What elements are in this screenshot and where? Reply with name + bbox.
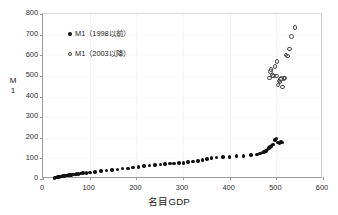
x-axis-tick-mark [276, 177, 277, 180]
y-axis-tick-label: 0 [4, 174, 38, 181]
x-axis-tick-label: 100 [69, 184, 109, 191]
data-point-series-1 [196, 159, 200, 163]
scatter-chart: M 1 0100200300400500600700800 M1（1998以前）… [0, 0, 338, 215]
y-axis-tick-label: 700 [4, 30, 38, 37]
gridline-vertical [276, 14, 277, 177]
data-point-series-1 [99, 169, 103, 173]
y-axis-tick-label: 600 [4, 51, 38, 58]
y-axis-tick-mark [40, 55, 43, 56]
x-axis-tick-label: 300 [162, 184, 202, 191]
data-point-series-1 [163, 162, 167, 166]
y-axis-tick-label: 800 [4, 9, 38, 16]
data-point-series-1 [105, 169, 109, 173]
data-point-series-1 [137, 165, 141, 169]
y-axis-tick-label: 500 [4, 71, 38, 78]
data-point-series-1 [201, 158, 205, 162]
data-point-series-1 [116, 168, 120, 172]
y-axis-tick-mark [40, 138, 43, 139]
data-point-series-1 [159, 163, 163, 167]
chart-legend: M1（1998以前） M1（2003以降） [65, 28, 130, 68]
x-axis-tick-label: 200 [115, 184, 155, 191]
plot-area: M1（1998以前） M1（2003以降） [42, 13, 322, 178]
data-point-series-1 [271, 143, 275, 147]
x-axis-title: 名目GDP [0, 196, 338, 207]
data-point-series-1 [126, 167, 130, 171]
data-point-series-1 [249, 153, 253, 157]
data-point-series-1 [177, 161, 181, 165]
data-point-series-1 [235, 154, 239, 158]
gridline-horizontal [43, 97, 321, 98]
y-axis-tick-label: 200 [4, 133, 38, 140]
data-point-series-2 [285, 54, 290, 59]
data-point-series-1 [242, 154, 246, 158]
gridline-vertical [230, 14, 231, 177]
data-point-series-2 [273, 64, 278, 69]
data-point-series-1 [275, 137, 279, 141]
y-axis-tick-label: 300 [4, 112, 38, 119]
y-axis-tick-label: 400 [4, 92, 38, 99]
x-axis-tick-mark [43, 177, 44, 180]
data-point-series-1 [88, 171, 92, 175]
gridline-vertical [136, 14, 137, 177]
data-point-series-1 [168, 162, 172, 166]
data-point-series-1 [221, 155, 225, 159]
x-axis-tick-mark [90, 177, 91, 180]
data-point-series-1 [110, 168, 114, 172]
data-point-series-1 [93, 170, 97, 174]
gridline-horizontal [43, 158, 321, 159]
data-point-series-2 [280, 85, 285, 90]
x-axis-tick-label: 500 [255, 184, 295, 191]
data-point-series-1 [172, 162, 176, 166]
gridline-vertical [183, 14, 184, 177]
data-point-series-1 [153, 163, 157, 167]
data-point-series-1 [131, 166, 135, 170]
y-axis-tick-mark [40, 117, 43, 118]
data-point-series-1 [142, 164, 146, 168]
legend-item-m1-2003: M1（2003以降） [65, 48, 130, 59]
data-point-series-1 [182, 161, 186, 165]
data-point-series-2 [289, 34, 294, 39]
legend-item-m1-1998: M1（1998以前） [65, 28, 130, 39]
x-axis-tick-mark [323, 177, 324, 180]
x-axis-tick-mark [183, 177, 184, 180]
data-point-series-2 [275, 59, 280, 64]
x-axis-tick-mark [136, 177, 137, 180]
y-axis-tick-mark [40, 158, 43, 159]
y-axis-tick-label: 100 [4, 154, 38, 161]
data-point-series-1 [205, 157, 209, 161]
y-axis-tick-mark [40, 35, 43, 36]
filled-circle-icon [65, 32, 74, 36]
data-point-series-2 [282, 76, 287, 81]
y-axis-tick-mark [40, 179, 43, 180]
legend-item-label: M1（2003以降） [75, 50, 130, 57]
x-axis-tick-label: 0 [22, 184, 62, 191]
x-axis-tick-mark [230, 177, 231, 180]
legend-item-label: M1（1998以前） [75, 30, 130, 37]
hollow-circle-icon [65, 52, 74, 56]
gridline-horizontal [43, 117, 321, 118]
data-point-series-1 [210, 156, 214, 160]
y-axis-tick-mark [40, 97, 43, 98]
data-point-series-1 [121, 167, 125, 171]
x-axis-tick-label: 400 [209, 184, 249, 191]
data-point-series-1 [191, 160, 195, 164]
y-axis-tick-mark [40, 14, 43, 15]
x-axis-tick-label: 600 [302, 184, 338, 191]
y-axis-tick-mark [40, 76, 43, 77]
data-point-series-2 [287, 47, 292, 52]
data-point-series-1 [228, 155, 232, 159]
data-point-series-1 [186, 160, 190, 164]
data-point-series-1 [280, 141, 284, 145]
gridline-horizontal [43, 138, 321, 139]
data-point-series-1 [148, 164, 152, 168]
data-point-series-2 [293, 25, 298, 30]
